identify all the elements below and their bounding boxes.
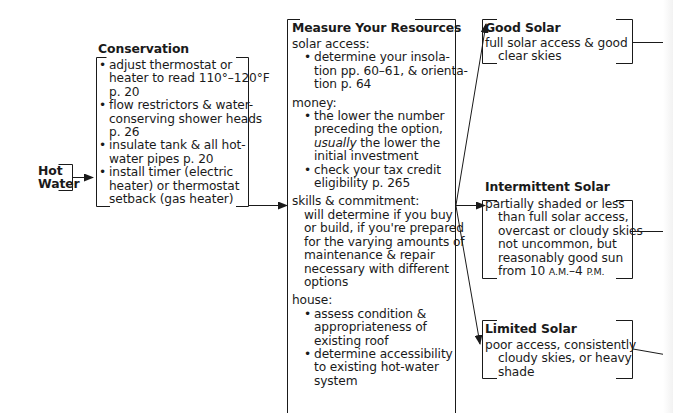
item-line: heater) or thermostat: [109, 180, 270, 193]
money-label: money:: [292, 97, 468, 110]
item-line: will determine if you buy: [304, 209, 468, 222]
item-line: than full solar access,: [485, 211, 643, 224]
item-line: existing roof: [314, 335, 468, 348]
item-line: appropriateness of: [314, 321, 468, 334]
measure-title: Measure Your Resources: [292, 21, 461, 34]
item-line: options: [304, 276, 468, 289]
hot-water-label: Hot Water: [38, 164, 80, 191]
item-line: assess condition &: [314, 308, 468, 321]
page-edge-shadow: [663, 0, 673, 413]
item-line: conserving shower heads: [109, 113, 270, 126]
conservation-item: insulate tank & all hot- water pipes p. …: [99, 139, 270, 166]
item-line: system: [314, 375, 468, 388]
time-pm: P.M.: [586, 266, 604, 277]
item-line: usually the lower the: [314, 137, 468, 150]
solar-access-item: determine your insola- tion pp. 60–61, &…: [304, 51, 468, 91]
conservation-list: adjust thermostat or heater to read 110°…: [99, 59, 270, 206]
item-line: preceding the option,: [314, 123, 468, 136]
item-line: adjust thermostat or: [109, 59, 270, 72]
money-item: the lower the number preceding the optio…: [304, 110, 468, 164]
skills-text: will determine if you buy or build, if y…: [304, 209, 468, 289]
item-line: maintenance & repair: [304, 249, 468, 262]
hot-water-label-line1: Hot: [38, 164, 80, 177]
item-line: or build, if you're prepared: [304, 222, 468, 235]
item-line: overcast or cloudy skies: [485, 225, 643, 238]
item-text: –4: [569, 264, 586, 278]
item-line: clear skies: [485, 50, 628, 63]
emphasis-usually: usually: [314, 136, 357, 150]
house-item: determine accessibility to existing hot-…: [304, 348, 468, 388]
item-line: necessary with different: [304, 263, 468, 276]
house-label: house:: [292, 294, 468, 307]
item-line: setback (gas heater): [109, 193, 270, 206]
item-line: tion pp. 60–61, & orienta-: [314, 65, 468, 78]
skills-label: skills & commitment:: [292, 195, 468, 208]
conservation-item: flow restrictors & water- conserving sho…: [99, 99, 270, 139]
conservation-title: Conservation: [98, 42, 189, 55]
item-line: flow restrictors & water-: [109, 99, 270, 112]
solar-access-label: solar access:: [292, 38, 468, 51]
item-line: the lower the number: [314, 110, 468, 123]
limited-solar-title: Limited Solar: [485, 322, 577, 335]
item-line: tion p. 64: [314, 78, 468, 91]
item-text: from 10: [498, 264, 549, 278]
item-line: partially shaded or less: [485, 198, 643, 211]
measure-content: solar access: determine your insola- tio…: [292, 38, 468, 388]
good-solar-title: Good Solar: [485, 21, 561, 34]
item-line: p. 26: [109, 126, 270, 139]
limited-solar-text: poor access, consistently cloudy skies, …: [485, 339, 636, 379]
item-line: install timer (electric: [109, 166, 270, 179]
item-line: from 10 A.M.–4 P.M.: [485, 265, 643, 278]
hot-water-label-line2: Water: [38, 177, 80, 190]
time-am: A.M.: [549, 266, 569, 277]
item-text: the lower the: [357, 136, 441, 150]
conservation-item: adjust thermostat or heater to read 110°…: [99, 59, 270, 99]
conservation-item: install timer (electric heater) or therm…: [99, 166, 270, 206]
item-line: full solar access & good: [485, 37, 628, 50]
item-line: reasonably good sun: [485, 252, 643, 265]
house-item: assess condition & appropriateness of ex…: [304, 308, 468, 348]
item-line: eligibility p. 265: [314, 177, 468, 190]
item-line: for the varying amounts of: [304, 236, 468, 249]
item-line: shade: [485, 366, 636, 379]
item-line: determine accessibility: [314, 348, 468, 361]
item-line: heater to read 110°–120°F: [109, 72, 270, 85]
intermittent-solar-text: partially shaded or less than full solar…: [485, 198, 643, 278]
item-line: insulate tank & all hot-: [109, 139, 270, 152]
item-line: to existing hot-water: [314, 361, 468, 374]
item-line: check your tax credit: [314, 164, 468, 177]
good-solar-text: full solar access & good clear skies: [485, 37, 628, 64]
item-line: initial investment: [314, 150, 468, 163]
item-line: cloudy skies, or heavy: [485, 352, 636, 365]
item-line: p. 20: [109, 86, 270, 99]
intermittent-solar-title: Intermittent Solar: [485, 180, 610, 193]
item-line: water pipes p. 20: [109, 153, 270, 166]
item-line: determine your insola-: [314, 51, 468, 64]
item-line: not uncommon, but: [485, 238, 643, 251]
money-item: check your tax credit eligibility p. 265: [304, 164, 468, 191]
item-line: poor access, consistently: [485, 339, 636, 352]
